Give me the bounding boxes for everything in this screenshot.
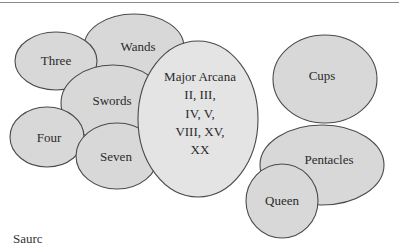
bubble-pentacles-label: Pentacles	[304, 152, 353, 167]
bubble-queen: Queen	[246, 164, 318, 238]
major-arcana-line-5: XX	[191, 142, 210, 157]
bubble-cups-label: Cups	[309, 68, 336, 83]
bubble-queen-label: Queen	[265, 193, 299, 208]
major-arcana-line-4: VIII, XV,	[175, 124, 224, 139]
bubble-seven-label: Seven	[100, 149, 132, 164]
major-arcana-line-2: II, III,	[184, 87, 215, 102]
bubble-swords-label: Swords	[92, 93, 131, 108]
bubble-three-label: Three	[41, 53, 72, 68]
bubble-major-arcana: Major Arcana II, III, IV, V, VIII, XV, X…	[138, 41, 258, 197]
bubble-four-label: Four	[37, 130, 62, 145]
bubble-wands-label: Wands	[120, 39, 155, 54]
major-arcana-title: Major Arcana	[164, 69, 236, 84]
major-arcana-line-3: IV, V,	[185, 106, 214, 121]
bubble-four: Four	[10, 107, 84, 167]
source-caption-partial: Saurc	[13, 232, 43, 245]
bubble-cups: Cups	[273, 35, 377, 123]
